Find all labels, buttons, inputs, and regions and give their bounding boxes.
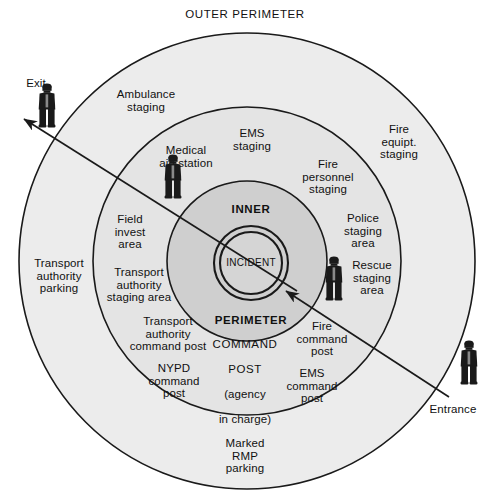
person-icon-medical-aid-station-guard [162, 153, 184, 203]
concentric-perimeter-diagram [0, 0, 491, 503]
person-icon-entrance-guard [458, 339, 480, 389]
person-icon-rescue-staging-guard [323, 255, 345, 305]
diagram-canvas: OUTER PERIMETER INNER PERIMETER INCIDENT… [0, 0, 491, 503]
person-icon-exit-guard [36, 82, 58, 132]
